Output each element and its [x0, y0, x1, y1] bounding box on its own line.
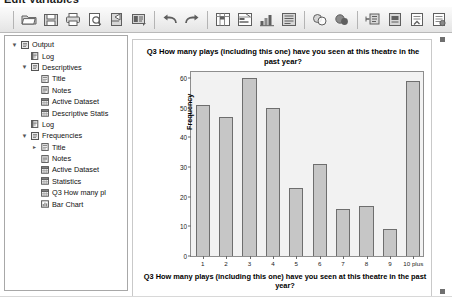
toolbar: [0, 7, 452, 33]
main-content: ▼OutputLog▼DescriptivesTitleNotesActive …: [0, 33, 452, 306]
tree-node[interactable]: Log: [7, 119, 127, 130]
output-navigator-panel[interactable]: ▼OutputLog▼DescriptivesTitleNotesActive …: [4, 35, 128, 291]
bar: [196, 105, 210, 256]
window-titlebar: Edit Variables: [0, 0, 452, 7]
x-axis-tick-label: 9: [388, 256, 391, 267]
tree-node-label: Active Dataset: [50, 165, 99, 174]
x-axis-label: Q3 How many plays (including this one) h…: [143, 272, 427, 290]
status-strip: [0, 296, 452, 306]
bar: [383, 229, 397, 256]
toolbar-separator: [13, 11, 14, 29]
tree-node-label: Log: [40, 52, 54, 61]
title-icon: [39, 75, 50, 83]
bar: [313, 164, 327, 256]
bar: [266, 108, 280, 256]
collapse-triangle-icon[interactable]: ▼: [20, 133, 29, 139]
tree-node-label: Notes: [50, 154, 71, 163]
scroll-marker-bottom: [440, 289, 445, 294]
tree-node-label: Notes: [50, 86, 71, 95]
table-icon: [39, 177, 50, 185]
tree-node[interactable]: Notes: [7, 85, 127, 96]
notes-icon: [39, 155, 50, 163]
x-axis-tick-label: 2: [224, 256, 227, 267]
title-icon: [39, 143, 50, 151]
tree-node-label: Q3 How many pl: [50, 188, 106, 197]
tree-node-label: Output: [30, 40, 54, 49]
log-icon: [29, 120, 40, 128]
bar: [359, 206, 373, 256]
toolbar-separator: [357, 11, 358, 29]
insert-variable-icon[interactable]: [331, 10, 352, 30]
bar: [242, 78, 256, 256]
table-icon: [39, 98, 50, 106]
tree-node-label: Title: [50, 74, 66, 83]
window-title: Edit Variables: [4, 0, 79, 5]
tree-node-label: Statistics: [50, 177, 81, 186]
table-icon: [39, 109, 50, 117]
bar: [289, 188, 303, 256]
redo-icon[interactable]: [181, 10, 202, 30]
tree-node[interactable]: ▼Frequencies: [7, 130, 127, 141]
open-file-icon[interactable]: [18, 10, 39, 30]
x-axis-tick-label: 6: [318, 256, 321, 267]
dialog-recall-icon[interactable]: [128, 10, 149, 30]
print-preview-icon[interactable]: [84, 10, 105, 30]
tree-node[interactable]: Active Dataset: [7, 96, 127, 107]
chart-title: Q3 How many plays (including this one) h…: [141, 47, 425, 66]
print-icon[interactable]: [62, 10, 83, 30]
find-icon[interactable]: [278, 10, 299, 30]
tree-node-label: Active Dataset: [50, 97, 99, 106]
tree-node[interactable]: ▼Descriptives: [7, 62, 127, 73]
tree-node[interactable]: ▼Output: [7, 39, 127, 50]
tree-node[interactable]: Statistics: [7, 176, 127, 187]
expand-triangle-icon[interactable]: ▸: [30, 144, 39, 150]
tree-node[interactable]: Title: [7, 73, 127, 84]
run-descriptives-icon[interactable]: [256, 10, 277, 30]
collapse-triangle-icon[interactable]: ▼: [10, 42, 19, 48]
x-axis-tick-label: 5: [295, 256, 298, 267]
table-icon: [39, 166, 50, 174]
tree-node[interactable]: Notes: [7, 153, 127, 164]
bar: [336, 209, 350, 256]
weight-cases-icon[interactable]: [384, 10, 405, 30]
spss-output-window: Edit Variables ▼OutputLog▼DescriptivesTi…: [0, 0, 452, 306]
save-icon[interactable]: [40, 10, 61, 30]
bar: [406, 81, 420, 256]
value-labels-icon[interactable]: [428, 10, 449, 30]
tree-node[interactable]: Bar Chart: [7, 198, 127, 209]
tree-node[interactable]: Descriptive Statis: [7, 107, 127, 118]
scroll-marker-top: [440, 37, 445, 42]
insert-cases-icon[interactable]: [309, 10, 330, 30]
tree-node[interactable]: ▸Title: [7, 142, 127, 153]
tree-node[interactable]: Log: [7, 50, 127, 61]
table-icon: [39, 189, 50, 197]
chart-icon: [39, 200, 50, 208]
outline-tree[interactable]: ▼OutputLog▼DescriptivesTitleNotesActive …: [5, 36, 127, 210]
toolbar-separator: [154, 11, 155, 29]
undo-icon[interactable]: [159, 10, 180, 30]
plot-area: Frequency 0102030405060 12345678910 plus: [190, 71, 424, 257]
tree-node-label: Title: [50, 143, 66, 152]
x-axis-tick-label: 8: [365, 256, 368, 267]
tree-node-label: Descriptive Statis: [50, 109, 108, 118]
split-file-icon[interactable]: [362, 10, 383, 30]
x-axis-tick-label: 10 plus: [403, 256, 423, 267]
output-viewer-panel[interactable]: Q3 How many plays (including this one) h…: [130, 33, 448, 306]
tree-node[interactable]: Active Dataset: [7, 164, 127, 175]
goto-case-icon[interactable]: [212, 10, 233, 30]
notes-icon: [39, 86, 50, 94]
x-axis-tick-label: 4: [271, 256, 274, 267]
tree-node[interactable]: Q3 How many pl: [7, 187, 127, 198]
output-icon: [29, 132, 40, 140]
output-icon: [19, 41, 30, 49]
tree-node-label: Log: [40, 120, 54, 129]
log-icon: [29, 52, 40, 60]
bar: [219, 117, 233, 256]
collapse-triangle-icon[interactable]: ▼: [20, 64, 29, 70]
variables-icon[interactable]: [234, 10, 255, 30]
tree-node-label: Bar Chart: [50, 200, 83, 209]
bar-chart-object[interactable]: Q3 How many plays (including this one) h…: [132, 39, 432, 297]
x-axis-tick-label: 1: [201, 256, 204, 267]
select-cases-icon[interactable]: [406, 10, 427, 30]
export-icon[interactable]: [106, 10, 127, 30]
